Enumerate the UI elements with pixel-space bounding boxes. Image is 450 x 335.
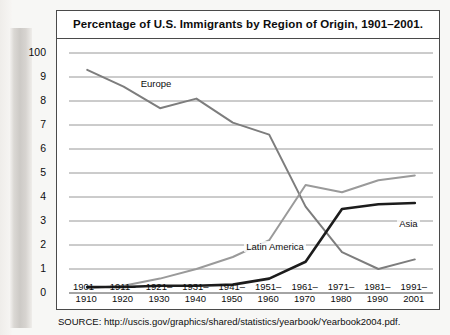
y-axis-tick-label: 9: [12, 70, 46, 82]
y-axis-tick-label: 0: [12, 286, 46, 298]
y-axis: 1009876543210: [12, 10, 46, 310]
y-axis-tick-label: 7: [12, 118, 46, 130]
plot-area: EuropeLatin AmericaAsia: [57, 39, 439, 309]
y-axis-tick-label: 2: [12, 238, 46, 250]
x-axis-tick-label: 1991–2001: [390, 281, 438, 304]
x-tick-start-year: 1991–: [390, 281, 438, 293]
figure-container: Percentage of U.S. Immigrants by Region …: [56, 10, 440, 310]
scanned-page: Percentage of U.S. Immigrants by Region …: [0, 0, 450, 335]
y-axis-tick-label: 3: [12, 214, 46, 226]
y-axis-tick-label: 1: [12, 262, 46, 274]
series-line-europe: [87, 70, 415, 269]
x-tick-end-year: 2001: [390, 293, 438, 305]
y-axis-tick-label: 4: [12, 190, 46, 202]
series-label-asia: Asia: [397, 218, 419, 229]
source-note: SOURCE: http://uscis.gov/graphics/shared…: [58, 316, 400, 327]
line-chart: [57, 39, 441, 311]
series-line-latin-america: [87, 175, 415, 288]
series-label-europe: Europe: [139, 78, 174, 89]
y-axis-tick-label: 6: [12, 142, 46, 154]
y-axis-tick-label: 5: [12, 166, 46, 178]
x-axis: 1901–19101911–19201921–19301931–19401941…: [56, 281, 440, 315]
chart-title: Percentage of U.S. Immigrants by Region …: [57, 18, 439, 30]
y-axis-tick-label: 8: [12, 94, 46, 106]
y-axis-tick-label: 100: [12, 46, 46, 58]
series-label-latin-america: Latin America: [244, 241, 306, 252]
